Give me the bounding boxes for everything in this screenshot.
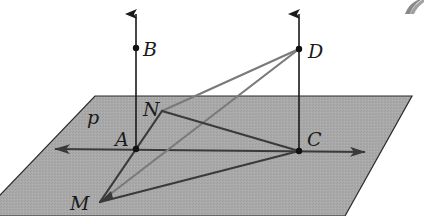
- point-a: [133, 146, 139, 152]
- line-ac: [210, 151, 365, 153]
- point-c: [296, 148, 302, 154]
- point-label-m: M: [69, 192, 90, 214]
- point-label-c: C: [307, 128, 322, 150]
- point-d: [296, 46, 302, 52]
- geometry-diagram: p A B C D N M: [0, 0, 424, 216]
- plane-p: [0, 96, 412, 216]
- corner-decoration: [405, 0, 424, 14]
- point-label-a: A: [113, 128, 129, 150]
- point-label-d: D: [307, 40, 323, 62]
- line-ac-left-arrow: [55, 149, 210, 151]
- plane-label-p: p: [87, 106, 99, 128]
- point-b: [133, 45, 139, 51]
- point-label-n: N: [142, 98, 161, 120]
- point-label-b: B: [142, 38, 157, 60]
